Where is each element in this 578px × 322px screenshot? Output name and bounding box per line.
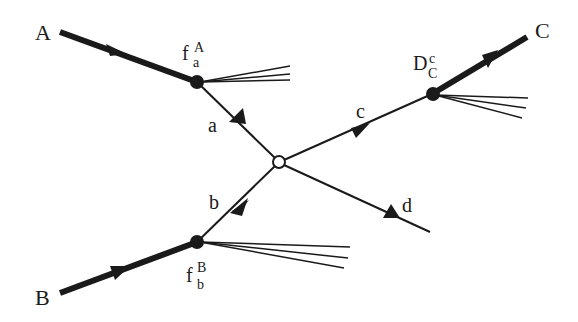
svg-text:c: c — [429, 51, 435, 66]
label-parton-c: c — [356, 100, 365, 122]
hadron-a-line — [60, 32, 197, 82]
svg-text:D: D — [413, 52, 427, 74]
label-fragmentation-d: D c C — [413, 51, 437, 81]
vertex-fb — [190, 235, 204, 249]
label-pdf-fa: f A a — [182, 40, 205, 70]
label-c-hadron: C — [535, 18, 550, 43]
vertex-d — [426, 87, 440, 101]
factorization-diagram: A B C a b c d f A a f B b D c C — [0, 0, 578, 322]
label-parton-a: a — [208, 114, 217, 136]
vertex-fa — [190, 75, 204, 89]
svg-text:B: B — [197, 260, 206, 275]
label-parton-d: d — [402, 194, 412, 216]
svg-text:a: a — [193, 55, 200, 70]
svg-text:b: b — [197, 277, 204, 292]
hard-scattering-vertex — [273, 156, 285, 168]
remnant-spray-b — [200, 242, 350, 268]
hadron-c-line — [432, 37, 527, 94]
remnant-spray-d — [435, 95, 528, 118]
label-pdf-fb: f B b — [186, 260, 206, 292]
label-a-hadron: A — [35, 20, 51, 45]
svg-text:A: A — [194, 40, 205, 55]
arrow-icon — [110, 266, 130, 280]
label-parton-b: b — [209, 191, 219, 213]
svg-text:f: f — [186, 264, 193, 286]
svg-text:C: C — [428, 66, 437, 81]
svg-text:f: f — [182, 42, 189, 64]
remnant-spray-a — [200, 66, 290, 82]
arrow-icon — [106, 44, 127, 56]
hadron-b-line — [60, 242, 197, 293]
label-b-hadron: B — [35, 285, 50, 310]
